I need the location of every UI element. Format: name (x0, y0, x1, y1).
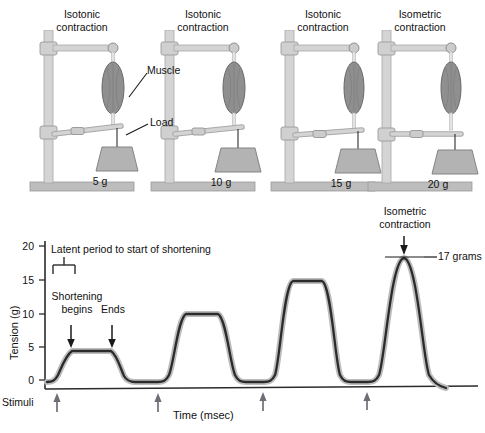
tension-trace (47, 258, 446, 388)
x-axis-title: Time (msec) (173, 409, 234, 422)
load-callout-label: Load (150, 116, 173, 129)
tension-chart: 20 15 10 5 0 Tension (g) Time (msec) Lat… (0, 200, 485, 433)
isometric-contraction-arrow (400, 236, 408, 255)
stimulus-arrow-2 (154, 393, 161, 412)
isometric-contraction-label: Isometric contraction (372, 205, 438, 230)
ytick-label-0: 0 (12, 374, 34, 386)
y-axis-title: Tension (g) (8, 306, 20, 360)
stimulus-arrow-4 (363, 392, 370, 410)
latent-period-bracket (53, 257, 75, 274)
chart-plot-svg (0, 200, 485, 433)
ends-arrow (108, 325, 116, 348)
stimulus-arrow-1 (53, 393, 60, 412)
latent-period-label: Latent period to start of shortening (51, 243, 211, 256)
ytick-label-20: 20 (12, 240, 34, 252)
muscle-callout-label: Muscle (147, 64, 180, 77)
stimuli-label: Stimuli (2, 396, 34, 409)
apparatus-callout-leaders (0, 0, 485, 200)
stimulus-arrow-3 (259, 392, 266, 411)
seventeen-grams-label: 17 grams (438, 250, 482, 263)
ytick-label-15: 15 (12, 274, 34, 286)
apparatus-row: Isotonic contraction (0, 0, 485, 200)
ends-label: Ends (94, 303, 132, 316)
figure-root: Isotonic contraction (0, 0, 485, 433)
shortening-begins-arrow (67, 325, 75, 348)
